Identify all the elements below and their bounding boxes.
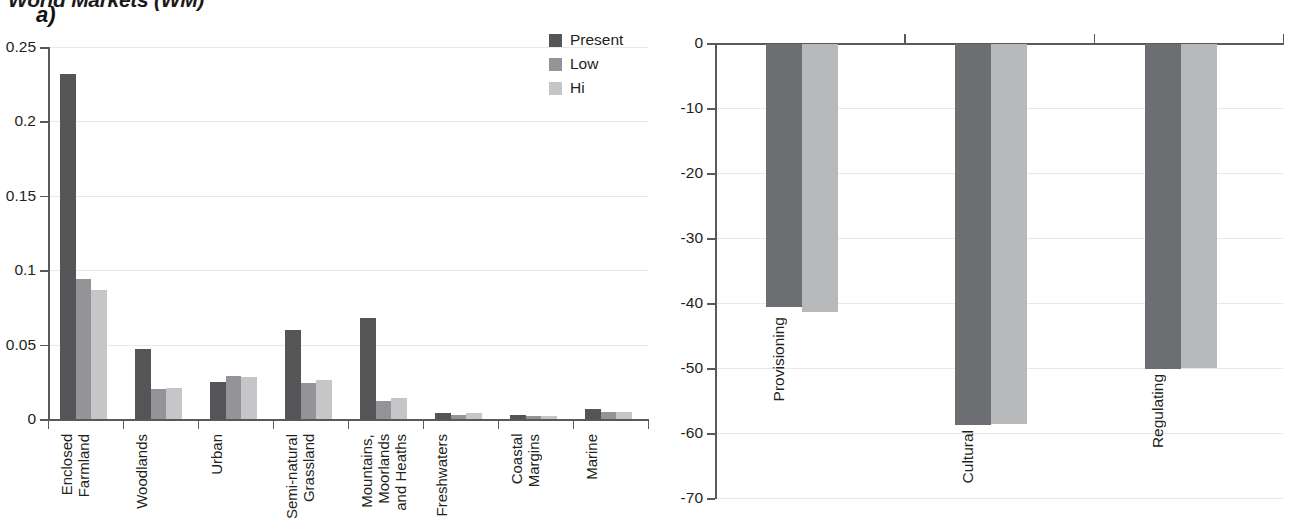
panel-a-x-category-label: Marine: [583, 434, 600, 480]
panel-a-gridline: [48, 121, 648, 122]
panel-a-legend-label: Hi: [570, 79, 585, 97]
panel-a-x-tick: [348, 420, 349, 429]
panel-b-y-tick: [707, 173, 715, 175]
panel-a-legend-label: Low: [570, 55, 598, 73]
panel-a-bar: [601, 412, 617, 419]
panel-a-bar: [226, 376, 242, 419]
panel-a-x-tick: [498, 420, 499, 429]
panel-a-bar: [301, 383, 317, 419]
panel-b-x-tick: [1283, 34, 1284, 43]
panel-a-y-tick-label: 0.2: [0, 112, 36, 130]
panel-b-x-category-label: Cultural: [959, 430, 977, 483]
panel-b-y-tick-label: -10: [661, 99, 703, 117]
panel-b-bar: [1181, 44, 1217, 368]
panel-a-bar: [285, 330, 301, 419]
panel-a-gridline: [48, 196, 648, 197]
panel-b-y-tick-label: -20: [661, 164, 703, 182]
panel-a-legend-label: Present: [570, 31, 623, 49]
panel-a-bar: [451, 415, 467, 419]
panel-b-y-tick: [707, 303, 715, 305]
panel-b-bar: [766, 44, 802, 307]
panel-a-y-tick-label: 0: [0, 410, 36, 428]
panel-a-bar: [541, 416, 557, 419]
panel-b-y-tick-label: -30: [661, 229, 703, 247]
panel-b-y-tick-label: -60: [661, 424, 703, 442]
panel-a-bar: [166, 388, 182, 419]
panel-a-bar: [135, 349, 151, 419]
figure-root: World Markets (WM) a) PresentLowHi 00.05…: [0, 0, 1303, 531]
panel-b-bar: [955, 44, 991, 425]
panel-a-bar: [526, 416, 542, 419]
panel-b-y-tick-label: -70: [661, 489, 703, 507]
panel-b-bar: [1145, 44, 1181, 369]
panel-a-letter: a): [36, 2, 56, 28]
panel-a-y-tick: [40, 121, 48, 123]
panel-a-y-tick-label: 0.15: [0, 187, 36, 205]
panel-a-x-category-label: Semi-natural Grassland: [283, 434, 317, 519]
panel-a-x-tick: [273, 420, 274, 429]
panel-a-x-category-label: Freshwaters: [433, 434, 450, 517]
panel-a-y-tick-label: 0.1: [0, 261, 36, 279]
panel-a-bar: [210, 382, 226, 419]
panel-a: a) PresentLowHi 00.050.10.150.20.25Enclo…: [0, 0, 655, 531]
panel-a-y-tick: [40, 47, 48, 49]
panel-b-x-category-label: Regulating: [1149, 374, 1167, 448]
panel-b-y-tick: [707, 433, 715, 435]
panel-a-x-tick: [573, 420, 574, 429]
panel-a-legend: PresentLowHi: [549, 28, 623, 100]
panel-a-x-tick: [48, 420, 49, 429]
panel-a-x-tick: [198, 420, 199, 429]
panel-a-x-category-label: Mountains, Moorlands and Heaths: [358, 434, 409, 511]
panel-a-gridline: [48, 345, 648, 346]
panel-b-x-tick: [1094, 34, 1095, 43]
panel-b: b) LowHi 0-10-20-30-40-50-60-70Provision…: [655, 0, 1303, 531]
panel-b-y-tick: [707, 498, 715, 500]
panel-a-x-tick: [423, 420, 424, 429]
panel-a-gridline: [48, 270, 648, 271]
panel-a-bar: [435, 413, 451, 419]
panel-a-bar: [616, 412, 632, 419]
panel-a-bar: [391, 398, 407, 419]
panel-b-x-tick: [904, 34, 905, 43]
panel-a-bar: [316, 380, 332, 419]
panel-a-bar: [241, 377, 257, 419]
panel-b-y-tick-label: -40: [661, 294, 703, 312]
panel-a-bar: [60, 74, 76, 419]
panel-a-bar: [585, 409, 601, 419]
panel-a-y-tick: [40, 196, 48, 198]
panel-a-bar: [151, 389, 167, 419]
panel-b-y-tick: [707, 108, 715, 110]
panel-b-gridline: [715, 498, 1283, 499]
panel-a-bar: [91, 290, 107, 419]
panel-a-y-tick-label: 0.25: [0, 38, 36, 56]
panel-a-legend-item: Hi: [549, 76, 623, 100]
panel-a-x-tick: [123, 420, 124, 429]
panel-a-legend-item: Present: [549, 28, 623, 52]
panel-a-y-axis-line: [48, 47, 50, 420]
panel-a-bar: [360, 318, 376, 419]
panel-b-y-tick: [707, 43, 715, 45]
panel-a-legend-swatch: [549, 58, 562, 71]
panel-b-y-tick: [707, 368, 715, 370]
panel-a-y-tick: [40, 419, 48, 421]
panel-a-legend-swatch: [549, 34, 562, 47]
panel-a-legend-item: Low: [549, 52, 623, 76]
panel-a-bar: [76, 279, 92, 419]
panel-b-x-category-label: Provisioning: [770, 317, 788, 401]
panel-a-y-tick-label: 0.05: [0, 336, 36, 354]
panel-a-x-category-label: Woodlands: [133, 434, 150, 509]
panel-a-y-tick: [40, 345, 48, 347]
panel-a-y-tick: [40, 270, 48, 272]
panel-a-x-category-label: Urban: [208, 434, 225, 475]
panel-b-y-tick-label: -50: [661, 359, 703, 377]
panel-b-bar: [991, 44, 1027, 424]
panel-b-y-tick-label: 0: [661, 34, 703, 52]
panel-b-y-tick: [707, 238, 715, 240]
panel-a-bar: [376, 401, 392, 419]
panel-a-x-tick: [648, 420, 649, 429]
panel-b-bar: [802, 44, 838, 312]
panel-b-y-axis-line: [715, 43, 717, 499]
panel-a-bar: [510, 415, 526, 419]
panel-b-gridline: [715, 433, 1283, 434]
panel-a-x-category-label: Coastal Margins: [508, 434, 542, 487]
